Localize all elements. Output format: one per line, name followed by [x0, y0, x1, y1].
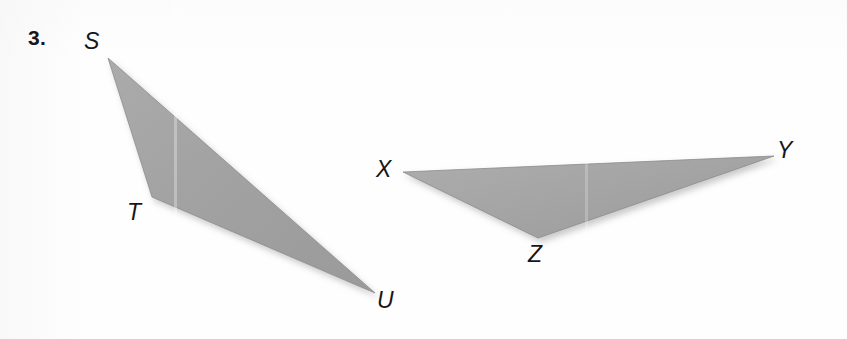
figure-page: 3. S T U X Y Z: [0, 0, 847, 339]
vertex-label-x: X: [376, 158, 391, 181]
vertex-label-s: S: [84, 30, 99, 53]
vertex-label-z: Z: [528, 243, 542, 266]
vertex-label-u: U: [377, 289, 394, 312]
scan-seam-right: [585, 0, 588, 339]
scan-seam-left: [174, 0, 177, 339]
triangle-stu-shape: [108, 58, 375, 293]
triangle-xyz-shape: [403, 156, 774, 238]
vertex-label-t: T: [127, 201, 141, 224]
vertex-label-y: Y: [777, 139, 792, 162]
geometry-figure: [0, 0, 847, 339]
